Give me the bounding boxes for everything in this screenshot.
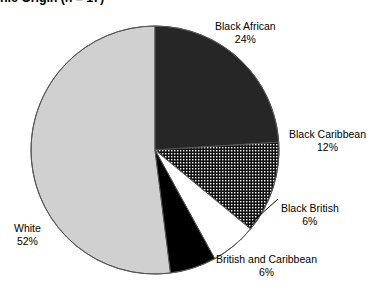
pie-label-white: White 52% xyxy=(14,222,41,247)
pie-label-black-caribbean-value: 12% xyxy=(289,141,366,154)
pie-slice-white xyxy=(31,26,171,274)
pie-label-black-african: Black African 24% xyxy=(215,20,276,45)
pie-label-british-and-caribbean-name: British and Caribbean xyxy=(216,253,317,266)
pie-label-black-british-name: Black British xyxy=(281,202,339,215)
pie-label-black-caribbean: Black Caribbean 12% xyxy=(289,128,366,153)
pie-label-white-name: White xyxy=(14,222,41,235)
pie-chart-figure: nic Origin (n = 17) Black African 24% Bl… xyxy=(0,0,384,290)
pie-label-black-british: Black British 6% xyxy=(281,202,339,227)
pie-label-british-and-caribbean: British and Caribbean 6% xyxy=(216,253,317,278)
pie-label-british-and-caribbean-value: 6% xyxy=(216,266,317,279)
pie-label-black-caribbean-name: Black Caribbean xyxy=(289,128,366,141)
pie-label-black-african-name: Black African xyxy=(215,20,276,33)
pie-label-white-value: 52% xyxy=(14,235,41,248)
pie-label-black-african-value: 24% xyxy=(215,33,276,46)
pie-label-black-british-value: 6% xyxy=(281,215,339,228)
